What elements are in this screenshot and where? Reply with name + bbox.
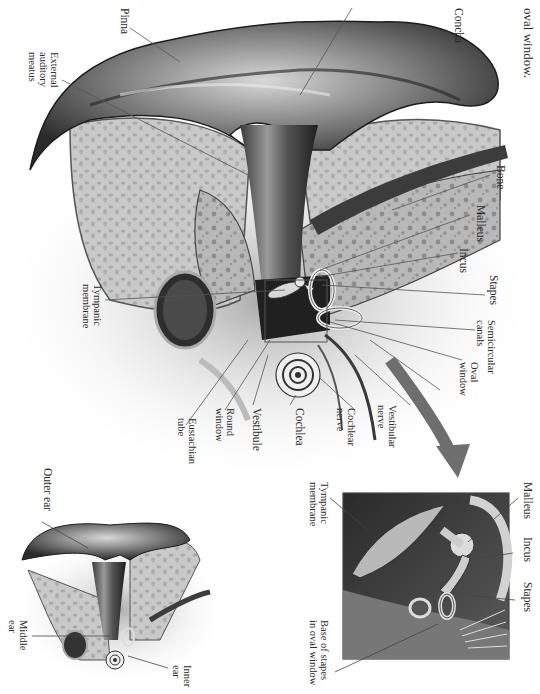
label-cochlea: Cochlea [294, 408, 306, 446]
label-round-window: Round window [214, 408, 236, 442]
inset-label-base-of-stapes: Base of stapes in oval window [308, 620, 330, 685]
label-cochlear-nerve: Cochlear nerve [335, 408, 357, 446]
label-incus: Incus [458, 248, 470, 273]
label-external-auditory-meatus: External auditory meatus [27, 52, 60, 88]
label-concha: Concha [453, 8, 465, 43]
overview-label-inner-ear: Inner ear [171, 665, 193, 687]
ossicle-detail-inset [330, 493, 518, 672]
overview-label-middle-ear: Middle ear [7, 620, 29, 650]
main-ear-diagram [20, 8, 520, 478]
inset-label-tympanic-membrane: Tympanic membrane [308, 482, 330, 526]
label-vestibule: Vestibule [251, 408, 263, 451]
label-bone: Bone [495, 165, 507, 189]
label-malleus: Malleus [475, 205, 487, 242]
ear-anatomy-illustration [0, 0, 540, 694]
caption-fragment: oval window. [522, 8, 534, 78]
overview-ear-diagram [20, 522, 220, 680]
label-pinna: Pinna [119, 8, 131, 34]
inset-label-malleus: Malleus [522, 482, 534, 519]
overview-label-outer-ear: Outer ear [42, 468, 54, 511]
label-oval-window: Oval window [458, 362, 480, 396]
label-stapes: Stapes [488, 275, 500, 305]
label-vestibular-nerve: Vestibular nerve [376, 405, 398, 448]
label-tympanic-membrane-main: Tympanic membrane [81, 284, 103, 328]
cochlea-spiral [276, 353, 320, 397]
inset-label-stapes: Stapes [522, 582, 534, 612]
label-eustachian-tube: Eustachian tube [176, 418, 198, 464]
inset-label-incus: Incus [522, 537, 534, 562]
